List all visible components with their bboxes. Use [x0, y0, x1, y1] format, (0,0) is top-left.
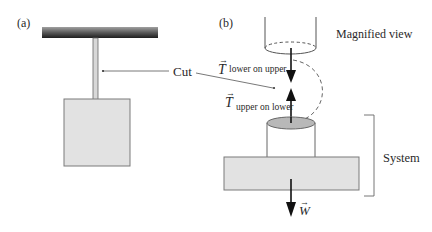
- panel-b-label: (b): [219, 16, 233, 30]
- svg-text:lower on upper: lower on upper: [229, 64, 287, 74]
- panel-a: (a) Cut: [17, 16, 275, 166]
- magnified-view-label: Magnified view: [336, 27, 413, 41]
- hanging-rope: [93, 38, 98, 100]
- hanging-block: [64, 99, 130, 166]
- cut-pointer-dot-b: [273, 87, 275, 89]
- svg-text:T: T: [218, 62, 227, 77]
- tension-lower-on-upper-arrow: [286, 48, 296, 83]
- cut-label: Cut: [173, 64, 192, 79]
- cut-pointer-dot-a: [102, 70, 104, 72]
- panel-a-label: (a): [17, 16, 30, 30]
- magnification-loop: [293, 60, 322, 121]
- system-label: System: [383, 151, 420, 165]
- weight-label: → W: [299, 197, 311, 218]
- svg-text:W: W: [299, 203, 311, 218]
- svg-text:upper on lower: upper on lower: [236, 102, 294, 112]
- tension-lower-on-upper-label: → T lower on upper: [218, 55, 287, 77]
- lower-rope-segment: [267, 117, 315, 157]
- ceiling-support: [42, 27, 158, 38]
- svg-text:T: T: [225, 95, 234, 110]
- system-bracket: [364, 115, 374, 196]
- free-body-diagram: (a) Cut (b) Magnified view → T: [0, 0, 432, 232]
- cut-pointer-line-b: [196, 73, 273, 88]
- tension-upper-on-lower-label: → T upper on lower: [225, 88, 294, 112]
- panel-b: (b) Magnified view → T lower on upper →: [218, 16, 420, 218]
